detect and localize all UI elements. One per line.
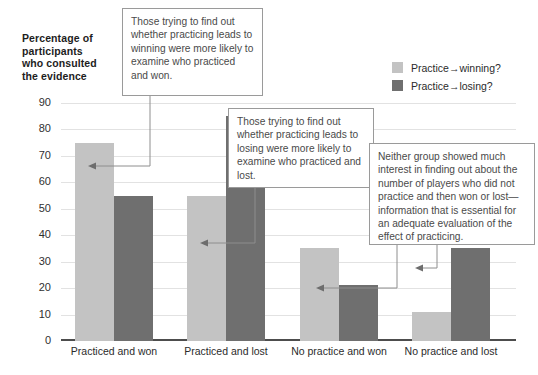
callout-no-practice: Neither group showed much interest in fi…: [369, 143, 535, 245]
x-tick-label-4: No practice and lost: [391, 345, 511, 357]
bar-1-1: [75, 143, 114, 341]
bar-1-2: [114, 196, 153, 341]
bar-chart-figure: Percentage of participants who consulted…: [0, 0, 538, 375]
callout-practice-winning: Those trying to find out whether practic…: [122, 8, 263, 96]
y-tick-label-90: 90: [17, 96, 51, 108]
y-tick-label-30: 30: [17, 255, 51, 267]
y-axis-title-line-4: the evidence: [22, 70, 126, 83]
y-tick-label-60: 60: [17, 175, 51, 187]
x-tick-label-2: Practiced and lost: [166, 345, 286, 357]
x-tick-label-3: No practice and won: [279, 345, 399, 357]
bar-4-1: [412, 312, 451, 341]
y-tick-label-20: 20: [17, 281, 51, 293]
bar-3-2: [339, 285, 378, 341]
legend: Practice→winning? Practice→losing?: [392, 60, 501, 96]
y-tick-label-70: 70: [17, 149, 51, 161]
legend-swatch-icon-dark: [392, 80, 403, 91]
y-axis-title: Percentage of participants who consulted…: [22, 32, 126, 82]
bar-2-1: [187, 196, 226, 341]
y-axis-title-line-3: who consulted: [22, 57, 126, 70]
x-tick-label-1: Practiced and won: [54, 345, 174, 357]
bar-3-1: [300, 248, 339, 341]
y-tick-label-0: 0: [17, 334, 51, 346]
y-tick-label-50: 50: [17, 202, 51, 214]
bar-group-1: [75, 100, 153, 341]
y-axis-title-line-2: participants: [22, 45, 126, 58]
legend-item-practice-winning: Practice→winning?: [392, 60, 501, 75]
y-axis-title-line-1: Percentage of: [22, 32, 126, 45]
legend-item-practice-losing: Practice→losing?: [392, 78, 501, 93]
legend-label-practice-winning: Practice→winning?: [411, 62, 501, 74]
bar-4-2: [451, 248, 490, 341]
y-tick-label-40: 40: [17, 228, 51, 240]
legend-swatch-icon-light: [392, 62, 403, 73]
y-tick-label-80: 80: [17, 122, 51, 134]
legend-label-practice-losing: Practice→losing?: [411, 80, 493, 92]
callout-practice-losing: Those trying to find out whether practic…: [228, 108, 374, 188]
y-tick-label-10: 10: [17, 308, 51, 320]
